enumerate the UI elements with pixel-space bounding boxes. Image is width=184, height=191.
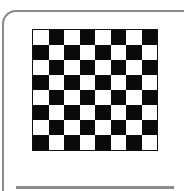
board-square xyxy=(80,135,96,150)
board-square xyxy=(126,75,142,90)
board-square xyxy=(142,45,158,60)
board-square xyxy=(111,120,127,135)
board-square xyxy=(80,30,96,45)
board-square xyxy=(49,75,65,90)
board-square xyxy=(126,135,142,150)
board-square xyxy=(33,105,49,120)
board-square xyxy=(95,135,111,150)
board-square xyxy=(111,105,127,120)
checkerboard-icon[interactable] xyxy=(32,29,158,151)
board-square xyxy=(33,30,49,45)
board-square xyxy=(49,45,65,60)
board-square xyxy=(111,135,127,150)
board-square xyxy=(33,135,49,150)
board-square xyxy=(49,90,65,105)
board-square xyxy=(111,90,127,105)
board-square xyxy=(126,45,142,60)
board-square xyxy=(142,75,158,90)
board-square xyxy=(64,90,80,105)
board-square xyxy=(33,90,49,105)
board-square xyxy=(95,60,111,75)
board-square xyxy=(49,60,65,75)
board-square xyxy=(95,75,111,90)
board-square xyxy=(126,120,142,135)
board-square xyxy=(142,30,158,45)
board-square xyxy=(64,135,80,150)
board-square xyxy=(95,45,111,60)
board-square xyxy=(80,45,96,60)
board-square xyxy=(111,75,127,90)
board-square xyxy=(80,105,96,120)
board-square xyxy=(80,120,96,135)
divider-underline xyxy=(16,186,174,189)
board-square xyxy=(80,60,96,75)
board-square xyxy=(49,105,65,120)
board-square xyxy=(142,135,158,150)
board-square xyxy=(33,45,49,60)
board-square xyxy=(80,90,96,105)
board-square xyxy=(49,120,65,135)
board-square xyxy=(142,105,158,120)
board-square xyxy=(95,30,111,45)
board-square xyxy=(126,90,142,105)
board-square xyxy=(95,90,111,105)
board-square xyxy=(142,90,158,105)
board-square xyxy=(142,120,158,135)
board-square xyxy=(126,60,142,75)
board-square xyxy=(64,120,80,135)
board-square xyxy=(49,30,65,45)
board-square xyxy=(95,105,111,120)
board-square xyxy=(64,105,80,120)
board-square xyxy=(126,30,142,45)
board-square xyxy=(49,135,65,150)
board-square xyxy=(126,105,142,120)
board-square xyxy=(64,30,80,45)
board-square xyxy=(80,75,96,90)
board-square xyxy=(33,75,49,90)
board-square xyxy=(95,120,111,135)
board-square xyxy=(111,60,127,75)
board-square xyxy=(64,45,80,60)
board-square xyxy=(111,45,127,60)
board-square xyxy=(33,120,49,135)
board-square xyxy=(33,60,49,75)
board-square xyxy=(111,30,127,45)
board-square xyxy=(142,60,158,75)
board-square xyxy=(64,60,80,75)
board-square xyxy=(64,75,80,90)
